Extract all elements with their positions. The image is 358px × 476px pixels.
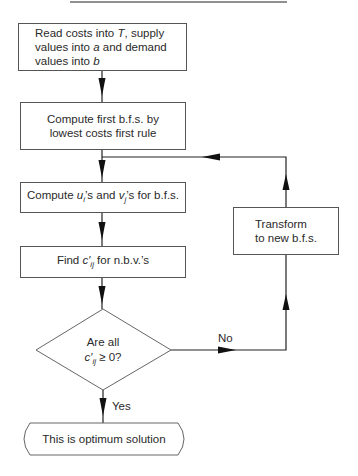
find-c-text: Find c′ij for n.b.v.’s [57,253,149,272]
optimum-text: This is optimum solution [30,432,178,446]
arrowhead-icon [202,154,220,161]
read-input-box: Read costs into T, supply values into a … [18,23,187,71]
arrowhead-icon [283,174,290,190]
arrowhead-icon [218,347,236,354]
transform-box: Transform to new b.f.s. [233,207,339,255]
no-label: No [218,331,233,345]
arrowhead-icon [99,78,106,96]
find-c-box: Find c′ij for n.b.v.’s [20,246,186,278]
compute-uv-box: Compute ui’s and vj’s for b.f.s. [20,182,186,213]
arrowhead-icon [99,160,106,178]
decision-text: Are all c′ij ≥ 0? [56,335,150,369]
yes-label: Yes [112,399,131,413]
first-bfs-text: Compute first b.f.s. by lowest costs fir… [47,112,159,140]
arrowhead-icon [99,222,106,240]
compute-uv-text: Compute ui’s and vj’s for b.f.s. [27,188,179,207]
arrowhead-icon [100,398,107,416]
arrowhead-icon [99,286,106,304]
arrowhead-icon [283,294,290,310]
first-bfs-box: Compute first b.f.s. by lowest costs fir… [20,102,186,150]
read-input-text: Read costs into T, supply values into a … [35,26,167,68]
transform-text: Transform to new b.f.s. [255,217,317,245]
